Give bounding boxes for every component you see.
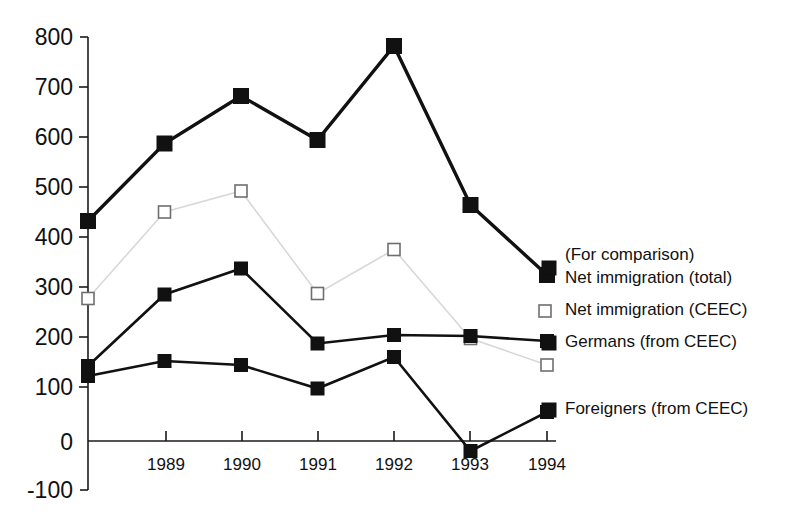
data-point-foreigners-from-ceec-1990 [235, 359, 248, 372]
data-point-net-immigration-total-1991 [310, 133, 325, 148]
chart-canvas: 800 700 600 500 400 300 200 100 0 -100 [0, 0, 800, 524]
data-point-net-immigration-total-1988 [81, 214, 96, 229]
y-tick-label-0: 0 [60, 429, 73, 455]
legend-label-net-immigration-total: Net immigration (total) [565, 268, 732, 287]
y-tick-label-neg100: -100 [27, 477, 73, 503]
data-point-foreigners-from-ceec-1993 [464, 445, 477, 458]
data-point-net-immigration-ceec-1990 [235, 185, 247, 197]
y-tick-label-100: 100 [35, 374, 73, 400]
data-point-germans-from-ceec-1990 [235, 262, 248, 275]
series-germans-from-ceec [82, 262, 554, 373]
y-tick-label-200: 200 [35, 324, 73, 350]
y-tick-label-600: 600 [35, 124, 73, 150]
data-point-germans-from-ceec-1991 [311, 337, 324, 350]
data-point-net-immigration-ceec-1992 [388, 244, 400, 256]
legend-comparison-note: (For comparison) [565, 245, 694, 264]
data-point-germans-from-ceec-1993 [464, 330, 477, 343]
y-tick-label-800: 800 [35, 24, 73, 50]
x-tick-label-1990: 1990 [223, 455, 261, 474]
data-point-germans-from-ceec-1992 [388, 329, 401, 342]
data-point-net-immigration-total-1993 [463, 198, 478, 213]
x-axis-ticks [166, 431, 547, 441]
y-tick-label-500: 500 [35, 174, 73, 200]
series-layer [81, 39, 555, 458]
data-point-foreigners-from-ceec-1988 [82, 370, 95, 383]
x-tick-label-1989: 1989 [147, 455, 185, 474]
x-tick-label-1994: 1994 [528, 455, 566, 474]
legend-label-net-immigration-ceec: Net immigration (CEEC) [565, 300, 747, 319]
legend-marker-net-immigration-total [542, 261, 556, 275]
y-tick-label-400: 400 [35, 224, 73, 250]
y-axis-ticks [79, 87, 88, 387]
series-line-germans-from-ceec [88, 269, 547, 367]
data-point-net-immigration-ceec-1994 [541, 359, 553, 371]
chart-legend: (For comparison) Net immigration (total)… [565, 245, 748, 418]
line-chart: 800 700 600 500 400 300 200 100 0 -100 [0, 0, 800, 524]
y-axis: 800 700 600 500 400 300 200 100 0 -100 [27, 24, 88, 503]
data-point-net-immigration-total-1992 [387, 39, 402, 54]
data-point-germans-from-ceec-1989 [158, 288, 171, 301]
data-point-foreigners-from-ceec-1992 [388, 351, 401, 364]
legend-marker-germans-from-ceec [542, 336, 556, 350]
legend-label-germans-from-ceec: Germans (from CEEC) [565, 332, 737, 351]
legend-marker-foreigners-from-ceec [542, 403, 556, 417]
data-point-net-immigration-ceec-1991 [312, 288, 324, 300]
series-line-net-immigration-total [88, 46, 547, 275]
y-axis-tick-labels: 800 700 600 500 400 300 200 100 0 -100 [27, 24, 73, 503]
legend-label-foreigners-from-ceec: Foreigners (from CEEC) [565, 399, 748, 418]
x-axis-tick-labels: 1989 1990 1991 1992 1993 1994 [147, 455, 566, 474]
x-tick-label-1992: 1992 [375, 455, 413, 474]
data-point-net-immigration-total-1989 [157, 136, 172, 151]
data-point-net-immigration-ceec-1989 [159, 206, 171, 218]
data-point-foreigners-from-ceec-1991 [311, 382, 324, 395]
legend-markers [539, 261, 556, 417]
data-point-net-immigration-total-1990 [234, 89, 249, 104]
legend-marker-net-immigration-ceec [539, 305, 551, 317]
series-net-immigration-total [81, 39, 555, 283]
data-point-foreigners-from-ceec-1989 [158, 355, 171, 368]
y-tick-label-700: 700 [35, 74, 73, 100]
y-tick-label-300: 300 [35, 274, 73, 300]
x-tick-label-1991: 1991 [299, 455, 337, 474]
data-point-net-immigration-ceec-1988 [82, 293, 94, 305]
